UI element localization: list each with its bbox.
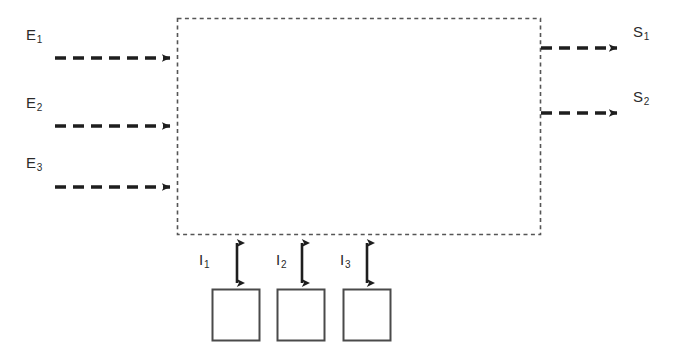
output-label-s2-sub: 2 bbox=[644, 96, 650, 107]
diagram-canvas: E1 E2 E3 S1 S2 I1 I2 I3 bbox=[0, 0, 680, 363]
interface-label-i1: I1 bbox=[199, 252, 209, 267]
interface-label-i2: I2 bbox=[276, 252, 286, 267]
interface-box-i3 bbox=[344, 290, 391, 341]
input-label-e2-sub: 2 bbox=[37, 102, 43, 113]
input-label-e1: E1 bbox=[26, 27, 42, 42]
input-label-e1-text: E bbox=[26, 26, 36, 43]
system-boundary bbox=[178, 19, 541, 235]
input-label-e2-text: E bbox=[26, 94, 36, 111]
diagram-graphics bbox=[0, 0, 680, 363]
interface-label-i3-text: I bbox=[340, 251, 344, 268]
interface-label-i1-sub: 1 bbox=[204, 259, 210, 270]
input-label-e3-text: E bbox=[26, 154, 36, 171]
output-label-s1-sub: 1 bbox=[644, 31, 650, 42]
interface-box-i2 bbox=[278, 290, 325, 341]
output-label-s2: S2 bbox=[633, 89, 649, 104]
output-label-s2-text: S bbox=[633, 88, 643, 105]
interface-label-i1-text: I bbox=[199, 251, 203, 268]
interface-label-i2-sub: 2 bbox=[281, 259, 287, 270]
interface-label-i3: I3 bbox=[340, 252, 350, 267]
input-label-e3: E3 bbox=[26, 155, 42, 170]
output-label-s1: S1 bbox=[633, 24, 649, 39]
interface-box-i1 bbox=[213, 290, 260, 341]
input-label-e1-sub: 1 bbox=[37, 34, 43, 45]
input-label-e3-sub: 3 bbox=[37, 162, 43, 173]
output-label-s1-text: S bbox=[633, 23, 643, 40]
interface-label-i2-text: I bbox=[276, 251, 280, 268]
input-label-e2: E2 bbox=[26, 95, 42, 110]
interface-label-i3-sub: 3 bbox=[345, 259, 351, 270]
